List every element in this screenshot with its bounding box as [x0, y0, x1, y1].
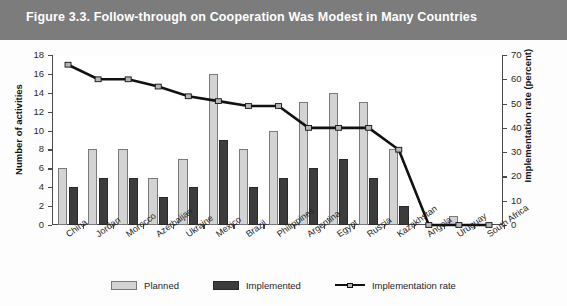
bar-implemented [129, 178, 138, 225]
bar-group [53, 55, 83, 225]
legend-item-planned: Planned [111, 280, 179, 291]
bar-planned [88, 149, 97, 225]
bar-group [474, 55, 504, 225]
y-left-tick-mark [48, 225, 52, 226]
implemented-swatch-icon [213, 281, 239, 290]
bar-group [83, 55, 113, 225]
bar-implemented [369, 178, 378, 225]
bar-planned [359, 102, 368, 225]
bar-implemented [279, 178, 288, 225]
bar-group [294, 55, 324, 225]
bars-layer [53, 55, 504, 225]
y-right-tick-mark [503, 104, 507, 105]
y-left-tick-label: 6 [22, 162, 44, 173]
chart-legend: Planned Implemented Implementation rate [0, 276, 567, 294]
y-left-tick-mark [48, 149, 52, 150]
bar-group [263, 55, 293, 225]
y-left-tick-mark [48, 74, 52, 75]
bar-group [143, 55, 173, 225]
bar-group [444, 55, 474, 225]
bar-implemented [249, 187, 258, 225]
legend-item-implementation-rate: Implementation rate [335, 280, 456, 291]
y-left-tick-label: 2 [22, 200, 44, 211]
bar-group [384, 55, 414, 225]
y-right-tick-mark [503, 79, 507, 80]
legend-item-implemented: Implemented [213, 280, 301, 291]
y-left-tick-label: 12 [22, 106, 44, 117]
bar-planned [269, 131, 278, 225]
bar-implemented [99, 178, 108, 225]
bar-group [113, 55, 143, 225]
y-right-tick-mark [503, 201, 507, 202]
planned-swatch-icon [111, 281, 137, 290]
bar-planned [58, 168, 67, 225]
y-left-tick-label: 0 [22, 219, 44, 230]
legend-label-implemented: Implemented [246, 280, 301, 291]
y-left-tick-label: 4 [22, 181, 44, 192]
plot-area [52, 55, 503, 225]
bar-implemented [189, 187, 198, 225]
y-axis-right-title: Implementation rate (percent) [522, 53, 533, 183]
y-left-tick-label: 16 [22, 68, 44, 79]
y-left-tick-mark [48, 55, 52, 56]
y-axis-left-title: Number of activities [13, 65, 24, 195]
bar-group [414, 55, 444, 225]
legend-label-planned: Planned [144, 280, 179, 291]
y-right-tick-mark [503, 55, 507, 56]
y-left-tick-mark [48, 168, 52, 169]
bar-implemented [219, 140, 228, 225]
y-right-tick-mark [503, 176, 507, 177]
bar-group [203, 55, 233, 225]
bar-group [173, 55, 203, 225]
y-left-tick-label: 10 [22, 125, 44, 136]
line-swatch-icon [335, 281, 365, 290]
y-left-tick-label: 14 [22, 87, 44, 98]
y-left-tick-mark [48, 187, 52, 188]
bar-group [233, 55, 263, 225]
bar-planned [329, 93, 338, 225]
y-left-tick-mark [48, 206, 52, 207]
y-right-tick-mark [503, 128, 507, 129]
bar-implemented [69, 187, 78, 225]
y-left-tick-label: 8 [22, 143, 44, 154]
bar-planned [118, 149, 127, 225]
y-left-tick-mark [48, 93, 52, 94]
legend-label-implementation-rate: Implementation rate [372, 280, 456, 291]
bar-group [354, 55, 384, 225]
bar-planned [389, 149, 398, 225]
y-left-tick-mark [48, 131, 52, 132]
bar-group [324, 55, 354, 225]
y-left-tick-label: 18 [22, 49, 44, 60]
y-right-tick-mark [503, 152, 507, 153]
y-left-tick-mark [48, 112, 52, 113]
bar-planned [209, 74, 218, 225]
bar-planned [239, 149, 248, 225]
page-title: Figure 3.3. Follow-through on Cooperatio… [26, 10, 477, 24]
figure-container: Figure 3.3. Follow-through on Cooperatio… [0, 0, 567, 306]
